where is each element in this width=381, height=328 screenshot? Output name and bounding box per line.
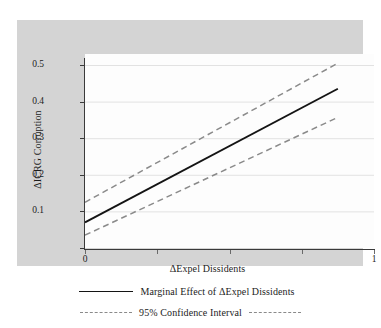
- y-tick-mark: [80, 138, 85, 139]
- legend-swatch-solid-line: [79, 291, 133, 292]
- chart-legend: Marginal Effect of ΔExpel Dissidents 95%…: [0, 281, 381, 323]
- y-axis-title: ΔICRG Corruption: [32, 90, 43, 210]
- x-tick-mark: [230, 250, 231, 254]
- y-tick-mark: [80, 211, 85, 212]
- legend-label-marginal-effect: Marginal Effect of ΔExpel Dissidents: [133, 286, 301, 297]
- legend-swatch-dashed-line-right: [249, 312, 301, 313]
- x-tick-mark: [302, 250, 303, 254]
- data-lines: [85, 63, 338, 235]
- x-axis-title: ΔExpel Dissidents: [17, 263, 381, 274]
- plot-svg: [85, 54, 374, 248]
- figure-panel: 0.10.20.30.40.5 01 ΔICRG Corruption ΔExp…: [17, 20, 363, 266]
- y-tick-mark: [80, 102, 85, 103]
- y-tick-mark: [80, 175, 85, 176]
- x-tick-mark: [157, 250, 158, 254]
- plot-area: [85, 54, 374, 248]
- legend-row-marginal-effect: Marginal Effect of ΔExpel Dissidents: [0, 281, 381, 302]
- legend-swatch-dashed-line-left: [80, 312, 132, 313]
- y-tick-mark: [80, 248, 85, 249]
- legend-label-confidence-interval: 95% Confidence Interval: [132, 307, 249, 318]
- y-axis-spine: [84, 58, 85, 250]
- legend-row-confidence-interval: 95% Confidence Interval: [0, 302, 381, 323]
- y-tick-mark: [80, 65, 85, 66]
- figure-root: 0.10.20.30.40.5 01 ΔICRG Corruption ΔExp…: [0, 0, 381, 328]
- y-tick-label: 0.5: [32, 60, 44, 70]
